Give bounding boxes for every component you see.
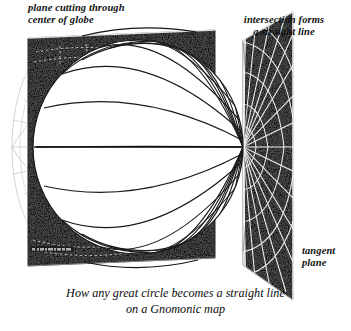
- great-circle-on-globe: [36, 147, 243, 148]
- label-tangent-plane: tangent plane: [302, 245, 335, 270]
- figure-caption: How any great circle becomes a straight …: [0, 286, 351, 317]
- tangent-plane: [243, 12, 304, 300]
- label-plane-cutting-through-center: plane cutting through center of globe: [28, 2, 125, 27]
- gnomonic-projection-figure: plane cutting through center of globe in…: [0, 0, 351, 331]
- artist-signature: [30, 246, 74, 252]
- diagram-canvas: [0, 0, 351, 331]
- label-intersection-forms-straight-line: intersection forms a straight line: [221, 14, 347, 39]
